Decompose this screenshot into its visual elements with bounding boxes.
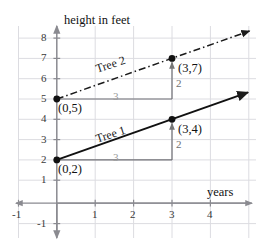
tree2-line bbox=[57, 31, 250, 99]
y-tick-label-2: 2 bbox=[41, 154, 47, 165]
point-label-0-2: (0,2) bbox=[58, 163, 82, 176]
x-tick-label-neg1: -1 bbox=[12, 209, 21, 220]
y-tick-label-neg1: -1 bbox=[37, 218, 46, 229]
chart-figure: height in feet years 8 7 6 5 4 3 2 1 -1 … bbox=[0, 0, 266, 245]
run-label-tree2: 3 bbox=[113, 91, 119, 102]
x-axis-title: years bbox=[207, 186, 233, 199]
run-label-tree1: 3 bbox=[113, 152, 119, 163]
point-label-0-5: (0,5) bbox=[58, 102, 82, 115]
tree1-line bbox=[57, 92, 248, 159]
rise-label-tree1: 2 bbox=[176, 139, 182, 150]
x-tick-label-2: 2 bbox=[130, 209, 136, 220]
y-tick-label-5: 5 bbox=[41, 93, 47, 104]
x-tick-label-3: 3 bbox=[169, 209, 175, 220]
y-tick-label-8: 8 bbox=[41, 32, 47, 43]
x-tick-label-1: 1 bbox=[92, 209, 98, 220]
point-label-3-7: (3,7) bbox=[178, 62, 202, 75]
y-tick-label-7: 7 bbox=[41, 52, 47, 63]
point-tree2-second bbox=[169, 55, 176, 62]
point-tree1-second bbox=[169, 116, 176, 123]
y-tick-label-3: 3 bbox=[41, 134, 47, 145]
y-tick-label-6: 6 bbox=[41, 73, 47, 84]
y-axis-title: height in feet bbox=[64, 14, 130, 27]
y-tick-label-4: 4 bbox=[41, 113, 47, 124]
rise-label-tree2: 2 bbox=[176, 78, 182, 89]
point-label-3-4: (3,4) bbox=[178, 123, 202, 136]
y-tick-label-1: 1 bbox=[41, 174, 47, 185]
x-tick-label-4: 4 bbox=[207, 209, 213, 220]
